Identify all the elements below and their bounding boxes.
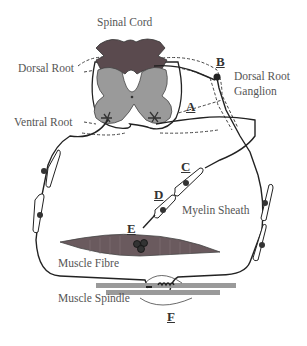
- label-dorsal-root-ganglion-1: Dorsal Root: [234, 71, 290, 83]
- reflex-arc-diagram: Spinal Cord Dorsal Root Ventral Root Dor…: [0, 0, 307, 346]
- diagram-graphic: [0, 0, 307, 346]
- ganglion-cell-body: [214, 74, 221, 81]
- label-muscle-spindle: Muscle Spindle: [58, 293, 130, 305]
- label-myelin-sheath: Myelin Sheath: [182, 205, 249, 217]
- muscle-fibre: [60, 234, 220, 256]
- label-dorsal-root: Dorsal Root: [18, 63, 74, 75]
- letter-f: F: [167, 310, 175, 323]
- letter-d: D: [154, 188, 163, 201]
- label-dorsal-root-ganglion-2: Ganglion: [234, 86, 277, 98]
- label-muscle-fibre: Muscle Fibre: [58, 258, 119, 270]
- letter-b: B: [216, 55, 225, 68]
- label-ventral-root: Ventral Root: [14, 117, 72, 129]
- spinal-cord: [92, 39, 181, 129]
- letter-e: E: [127, 222, 136, 235]
- letter-c: C: [181, 160, 190, 173]
- label-spinal-cord: Spinal Cord: [97, 17, 152, 29]
- letter-a: A: [186, 100, 195, 113]
